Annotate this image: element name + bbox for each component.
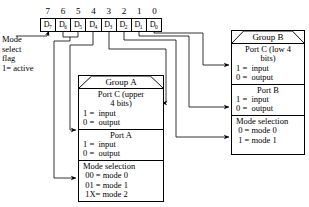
bit-cell-d0-index: 0 bbox=[155, 24, 158, 30]
bit-number-3: 3 bbox=[101, 6, 116, 17]
bit-number-0: 0 bbox=[147, 6, 162, 17]
bit-number-6: 6 bbox=[55, 6, 70, 17]
bit-cell-d7[interactable]: D7 bbox=[41, 19, 56, 31]
bit-number-1: 1 bbox=[132, 6, 147, 17]
bit-cell-d4[interactable]: D4 bbox=[86, 19, 101, 31]
mode-sel-a-mode2: 1X= mode 2 bbox=[79, 190, 163, 199]
group-a-title: Group A bbox=[105, 77, 136, 87]
group-b-header: Group B bbox=[232, 31, 304, 44]
bit-cell-d2-index: 2 bbox=[125, 24, 128, 30]
port-b-output: 0 = output bbox=[232, 104, 304, 113]
bit-cell-d6-index: 6 bbox=[64, 24, 67, 30]
bit-cell-d0[interactable]: D0 bbox=[147, 19, 161, 31]
bit-cell-d7-index: 7 bbox=[49, 24, 52, 30]
bit-cell-d1[interactable]: D1 bbox=[132, 19, 147, 31]
group-b-port-b: Port B 1 = input 0 = output bbox=[232, 85, 304, 116]
bit-cell-d5-index: 5 bbox=[79, 24, 82, 30]
bit-cell-d2[interactable]: D2 bbox=[117, 19, 132, 31]
mode-select-flag-line4: 1= active bbox=[2, 64, 64, 74]
bit-number-7: 7 bbox=[40, 6, 55, 17]
group-a-header: Group A bbox=[79, 76, 163, 89]
bit-number-4: 4 bbox=[86, 6, 101, 17]
port-c-low-output: 0 = output bbox=[232, 73, 304, 82]
bit-number-2: 2 bbox=[116, 6, 131, 17]
port-c-upper-output: 0 = output bbox=[79, 118, 163, 127]
group-b-port-c-low: Port C (low 4 bits) 1 = input 0 = output bbox=[232, 44, 304, 85]
control-word-register: D7 D6 D5 D4 D3 D2 D1 D0 bbox=[40, 18, 162, 32]
bit-cell-d4-index: 4 bbox=[94, 24, 97, 30]
wire-d6-d5-merge bbox=[63, 32, 78, 37]
wire-d0-port-c-low bbox=[154, 32, 229, 65]
bit-cell-d5[interactable]: D5 bbox=[71, 19, 86, 31]
bit-cell-d6[interactable]: D6 bbox=[56, 19, 71, 31]
mode-select-flag-caption: Mode select flag 1= active bbox=[2, 35, 64, 73]
bit-cell-d1-index: 1 bbox=[140, 24, 143, 30]
bit-cell-d3[interactable]: D3 bbox=[102, 19, 117, 31]
group-a-mode-selection: Mode selection 00 = mode 0 01 = mode 1 1… bbox=[79, 161, 163, 201]
bit-number-row: 7 6 5 4 3 2 1 0 bbox=[40, 6, 162, 17]
group-b-title: Group B bbox=[252, 32, 283, 42]
diagram-canvas: 7 6 5 4 3 2 1 0 D7 D6 D5 D4 D3 D2 D1 D0 … bbox=[0, 0, 309, 207]
group-b-mode-selection: Mode selection 0 = mode 0 1 = mode 1 bbox=[232, 116, 304, 146]
group-a-port-c-upper: Port C (upper 4 bits) 1 = input 0 = outp… bbox=[79, 89, 163, 130]
mode-sel-b-mode1: 1 = mode 1 bbox=[232, 136, 304, 145]
bit-cell-d3-index: 3 bbox=[110, 24, 113, 30]
group-a-port-a: Port A 1 = input 0 = output bbox=[79, 130, 163, 161]
group-a-box: Group A Port C (upper 4 bits) 1 = input … bbox=[78, 75, 164, 202]
group-b-box: Group B Port C (low 4 bits) 1 = input 0 … bbox=[231, 30, 305, 155]
bit-number-5: 5 bbox=[71, 6, 86, 17]
port-a-output: 0 = output bbox=[79, 149, 163, 158]
